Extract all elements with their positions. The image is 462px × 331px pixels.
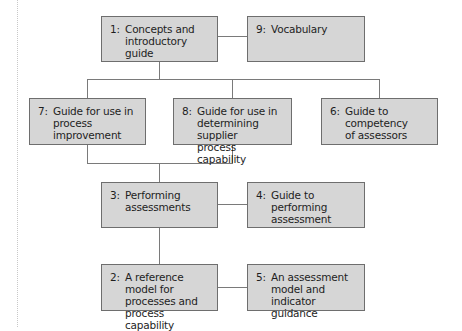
box-9-vocabulary: 9:Vocabulary	[247, 16, 365, 62]
box-8-supplier-capability: 8:Guide for use in determining supplier …	[173, 98, 292, 145]
box-number: 3:	[110, 189, 125, 213]
connector-bus-8	[232, 79, 233, 98]
connector-1-down	[159, 61, 160, 80]
connector-2-5	[217, 287, 247, 288]
connector-7-down	[87, 144, 88, 163]
connector-1-9	[217, 36, 247, 37]
box-1-concepts: 1:Concepts and introductory guide	[101, 16, 218, 62]
box-label: Guide for use in process improvement	[53, 105, 139, 141]
box-number: 9:	[256, 23, 271, 35]
connector-bus-7	[87, 79, 88, 98]
margin-rule	[17, 0, 18, 327]
connector-bus-6	[379, 79, 380, 98]
box-number: 7:	[38, 105, 53, 141]
box-label: Guide to competency of assessors	[345, 105, 431, 141]
connector-3-4	[217, 204, 247, 205]
box-number: 4:	[256, 189, 271, 225]
box-6-assessor-competency: 6:Guide to competency of assessors	[321, 98, 438, 145]
box-number: 5:	[256, 271, 271, 319]
box-label: Guide for use in determining supplier pr…	[197, 105, 285, 165]
connector-top-bus	[87, 79, 380, 80]
box-7-process-improvement: 7:Guide for use in process improvement	[29, 98, 146, 145]
connector-3-2	[159, 227, 160, 264]
box-label: Guide to performing assessment	[271, 189, 358, 225]
box-5-assessment-model: 5:An assessment model and indicator guid…	[247, 264, 365, 311]
box-4-performing-guide: 4:Guide to performing assessment	[247, 182, 365, 228]
box-label: A reference model for processes and proc…	[125, 271, 211, 331]
box-number: 1:	[110, 23, 125, 59]
box-2-reference-model: 2:A reference model for processes and pr…	[101, 264, 218, 311]
connector-bus-3	[159, 163, 160, 182]
box-label: Vocabulary	[271, 23, 358, 35]
box-label: Concepts and introductory guide	[125, 23, 211, 59]
box-3-performing-assessments: 3:Performing assessments	[101, 182, 218, 228]
box-number: 8:	[182, 105, 197, 165]
box-number: 2:	[110, 271, 125, 331]
box-label: Performing assessments	[125, 189, 211, 213]
box-label: An assessment model and indicator guidan…	[271, 271, 358, 319]
box-number: 6:	[330, 105, 345, 141]
